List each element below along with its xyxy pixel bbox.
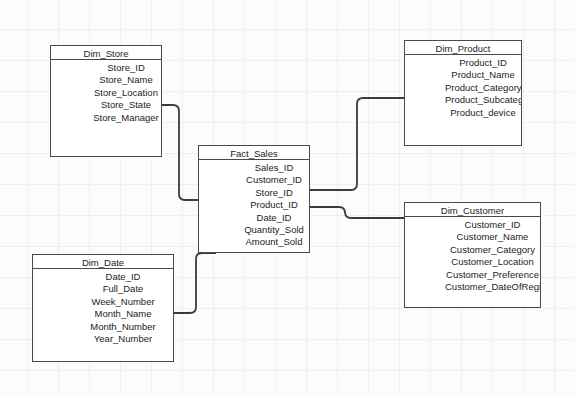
connector-rel-fact-product	[310, 98, 404, 190]
entity-field: Full_Date	[73, 283, 173, 295]
entity-field: Month_Number	[73, 321, 173, 333]
entity-field-list: Store_IDStore_NameStore_LocationStore_St…	[51, 60, 161, 124]
entity-field: Product_device	[445, 107, 521, 119]
entity-field: Amount_Sold	[239, 236, 309, 248]
entity-field: Store_Name	[91, 74, 161, 86]
connector-rel-date-fact	[174, 253, 216, 313]
entity-field: Product_Name	[445, 69, 521, 81]
entity-field: Product_ID	[445, 57, 521, 69]
entity-field: Quantity_Sold	[239, 224, 309, 236]
entity-fact-sales[interactable]: Fact_Sales Sales_IDCustomer_IDStore_IDPr…	[198, 145, 310, 253]
entity-field: Customer_ID	[239, 174, 309, 186]
entity-field: Store_ID	[91, 62, 161, 74]
entity-field: Store_State	[91, 99, 161, 111]
entity-field: Year_Number	[73, 333, 173, 345]
entity-field: Date_ID	[73, 271, 173, 283]
entity-field: Product_Category	[445, 82, 521, 94]
entity-field: Customer_DateOfRegistration	[445, 281, 540, 293]
entity-field: Customer_ID	[445, 219, 540, 231]
connector-rel-fact-customer	[310, 207, 404, 218]
entity-field: Week_Number	[73, 296, 173, 308]
entity-field: Customer_Preference	[445, 269, 540, 281]
entity-field: Product_ID	[239, 199, 309, 211]
entity-dim-date[interactable]: Dim_Date Date_IDFull_DateWeek_NumberMont…	[32, 254, 174, 362]
entity-title: Dim_Store	[51, 46, 161, 60]
entity-field-list: Date_IDFull_DateWeek_NumberMonth_NameMon…	[33, 269, 173, 345]
entity-dim-store[interactable]: Dim_Store Store_IDStore_NameStore_Locati…	[50, 45, 162, 157]
connector-rel-store-fact	[162, 105, 198, 200]
entity-title: Fact_Sales	[199, 146, 309, 160]
entity-field-list: Sales_IDCustomer_IDStore_IDProduct_IDDat…	[199, 160, 309, 249]
entity-field: Sales_ID	[239, 162, 309, 174]
entity-field: Customer_Category	[445, 244, 540, 256]
entity-field: Store_Location	[91, 87, 161, 99]
entity-field-list: Product_IDProduct_NameProduct_CategoryPr…	[405, 55, 521, 119]
entity-dim-product[interactable]: Dim_Product Product_IDProduct_NameProduc…	[404, 40, 522, 146]
entity-field: Month_Name	[73, 308, 173, 320]
entity-field: Store_Manager	[91, 112, 161, 124]
entity-dim-customer[interactable]: Dim_Customer Customer_IDCustomer_NameCus…	[404, 202, 541, 308]
entity-field: Date_ID	[239, 212, 309, 224]
entity-field: Customer_Location	[445, 256, 540, 268]
entity-field: Product_Subcategory	[445, 94, 521, 106]
entity-field-list: Customer_IDCustomer_NameCustomer_Categor…	[405, 217, 540, 293]
entity-title: Dim_Date	[33, 255, 173, 269]
entity-title: Dim_Customer	[405, 203, 540, 217]
entity-title: Dim_Product	[405, 41, 521, 55]
entity-field: Store_ID	[239, 187, 309, 199]
entity-field: Customer_Name	[445, 231, 540, 243]
diagram-canvas: Dim_Store Store_IDStore_NameStore_Locati…	[0, 0, 575, 395]
